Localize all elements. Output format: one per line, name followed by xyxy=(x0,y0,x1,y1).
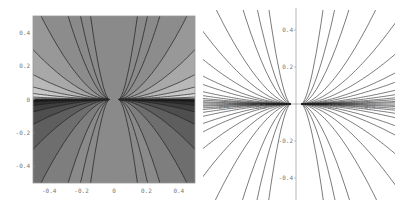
y-tick-label: 0.2 xyxy=(282,63,293,70)
x-tick-label: -0.4 xyxy=(42,187,57,194)
y-tick-label: 0.4 xyxy=(19,29,30,36)
y-tick-label: 0.4 xyxy=(282,26,293,33)
figure: -0.4-0.200.20.40.40.20-0.2-0.4 -0.4-0.20… xyxy=(0,0,400,211)
x-tick-label: 0 xyxy=(112,187,116,194)
x-tick-label: -0.2 xyxy=(252,103,267,110)
x-tick-label: -0.4 xyxy=(215,103,230,110)
y-tick-label: 0 xyxy=(26,96,30,103)
y-tick-label: -0.4 xyxy=(279,174,294,181)
x-tick-label: 0.2 xyxy=(328,103,339,110)
y-tick-label: -0.2 xyxy=(16,129,31,136)
contour-line-plot: -0.4-0.20.20.40.40.2-0.2-0.4 xyxy=(192,0,399,211)
y-tick-label: -0.4 xyxy=(16,162,31,169)
x-tick-label: 0.4 xyxy=(365,103,376,110)
y-tick-label: -0.2 xyxy=(279,137,294,144)
x-tick-label: 0.4 xyxy=(173,187,184,194)
y-tick-label: 0.2 xyxy=(19,62,30,69)
x-tick-label: -0.2 xyxy=(74,187,89,194)
filled-contour-plot: -0.4-0.200.20.40.40.20-0.2-0.4 xyxy=(16,0,205,211)
contour-fill-regions xyxy=(23,0,204,211)
x-tick-label: 0.2 xyxy=(141,187,152,194)
